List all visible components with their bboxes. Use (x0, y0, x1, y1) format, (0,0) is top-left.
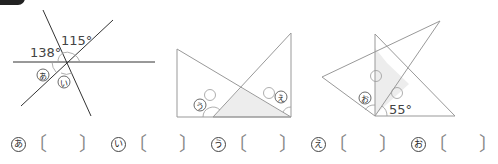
bracket-open: 〔 (228, 134, 247, 154)
bracket-open: 〔 (328, 134, 347, 154)
angle-label-115: 115° (61, 33, 92, 48)
unknown-i: い (60, 79, 68, 88)
figure-1-intersecting-lines: 138° 115° あ い (13, 10, 155, 116)
angle-label-138: 138° (30, 45, 61, 60)
figure-3-overlapping-triangles: お 55° (322, 21, 455, 117)
answer-row: あ 〔 〕 い 〔 〕 う 〔 〕 え 〔 〕 お 〔 〕 (0, 133, 498, 159)
label-a: あ (11, 137, 26, 152)
unknown-o: お (361, 95, 369, 104)
unknown-u: う (196, 102, 204, 111)
bracket-open: 〔 (128, 134, 147, 154)
label-e: え (311, 137, 326, 152)
bracket-open: 〔 (428, 134, 447, 154)
figure-2-set-squares: う え (177, 33, 291, 117)
bracket-open: 〔 (28, 134, 47, 154)
angle-label-55: 55° (389, 102, 412, 117)
label-o: お (411, 137, 426, 152)
label-u: う (211, 137, 226, 152)
bracket-close: 〕 (279, 134, 298, 154)
unknown-e: え (277, 94, 285, 103)
worksheet: 138° 115° あ い う え (0, 0, 498, 164)
unknown-a: あ (39, 72, 47, 81)
bracket-close: 〕 (179, 134, 198, 154)
bracket-close: 〕 (379, 134, 398, 154)
bracket-close: 〕 (479, 134, 498, 154)
label-i: い (111, 137, 126, 152)
bracket-close: 〕 (79, 134, 98, 154)
